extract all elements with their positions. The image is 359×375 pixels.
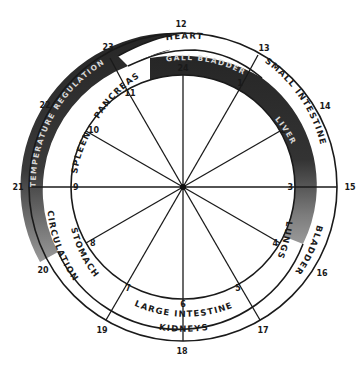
hour-label: 7 — [125, 284, 131, 293]
hour-label: 19 — [96, 326, 108, 335]
hour-label: 9 — [73, 183, 79, 192]
organ-kidneys: KIDNEYS — [159, 322, 210, 334]
hour-label: 18 — [176, 347, 188, 356]
hour-label: 15 — [344, 183, 356, 192]
organ-clock-diagram: 24 1 2 3 4 5 6 7 8 9 10 11 12 13 14 15 1… — [0, 0, 359, 375]
hour-label: 17 — [257, 326, 268, 335]
hour-label: 21 — [12, 183, 24, 192]
organ-heart: HEART — [165, 31, 204, 43]
hour-label: 6 — [180, 300, 186, 309]
center-dot — [180, 184, 186, 190]
hour-label: 20 — [37, 266, 49, 275]
hour-label: 23 — [102, 43, 113, 52]
organ-spleen: SPLEEN — [69, 129, 93, 174]
hour-label: 14 — [319, 102, 331, 111]
hour-label: 1 — [237, 79, 243, 88]
hour-label: 8 — [90, 239, 96, 248]
hour-label: 5 — [235, 284, 241, 293]
hour-label: 22 — [39, 101, 50, 110]
hour-label: 16 — [316, 269, 328, 278]
hour-label: 12 — [175, 20, 186, 29]
hour-label: 11 — [124, 89, 136, 98]
hour-label: 4 — [272, 239, 278, 248]
hour-label: 13 — [258, 44, 269, 53]
hour-label: 3 — [287, 183, 293, 192]
hour-label: 24 — [177, 64, 189, 73]
